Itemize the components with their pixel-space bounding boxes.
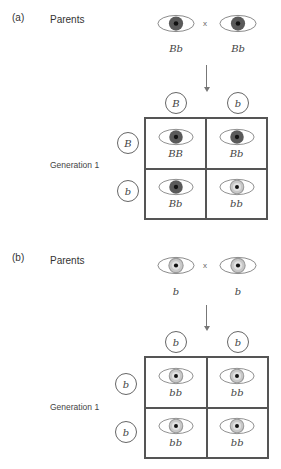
cell-genotype: BB: [168, 148, 183, 159]
blue-eye-icon: [219, 367, 255, 385]
column-allele: b: [227, 92, 249, 114]
punnett-cell: bb: [207, 357, 269, 408]
cell-genotype: bb: [169, 437, 182, 448]
parent-genotype: Bb: [156, 43, 196, 54]
arrowhead-icon: [204, 326, 210, 331]
panel-label: (a): [12, 12, 24, 23]
cell-genotype: bb: [230, 198, 243, 209]
brown-eye-icon: [158, 128, 194, 146]
punnett-square: BB Bb Bb bb: [144, 117, 268, 220]
punnett-square: bb bb bb bb: [144, 356, 269, 459]
parents-label: Parents: [50, 14, 84, 25]
arrow-down-icon: [206, 65, 207, 88]
generation-label: Generation 1: [50, 402, 99, 412]
cell-genotype: Bb: [230, 148, 244, 159]
blue-eye-icon: [219, 256, 257, 275]
brown-eye-icon: [219, 14, 257, 33]
punnett-cell: Bb: [206, 118, 267, 169]
brown-eye-icon: [158, 178, 194, 196]
punnett-cell: bb: [206, 169, 267, 220]
punnett-cell: bb: [145, 408, 207, 459]
blue-eye-icon: [157, 256, 195, 275]
blue-eye-icon: [158, 367, 194, 385]
blue-eye-icon: [158, 417, 194, 435]
cell-genotype: bb: [169, 387, 182, 398]
generation-label: Generation 1: [50, 160, 99, 170]
punnett-cell: Bb: [145, 169, 206, 220]
row-allele: b: [115, 373, 137, 395]
parent-genotype: Bb: [218, 43, 258, 54]
row-allele: b: [115, 421, 137, 443]
punnett-cell: bb: [145, 357, 207, 408]
arrow-down-icon: [206, 305, 207, 327]
column-allele: B: [165, 92, 187, 114]
brown-eye-icon: [157, 14, 195, 33]
row-allele: b: [117, 180, 139, 202]
parent-genotype: b: [156, 286, 196, 297]
blue-eye-icon: [219, 417, 255, 435]
punnett-cell: bb: [207, 408, 269, 459]
panel-label: (b): [12, 252, 24, 263]
parent-genotype: b: [218, 286, 258, 297]
column-allele: b: [165, 331, 187, 353]
parents-label: Parents: [50, 255, 84, 266]
punnett-cell: BB: [145, 118, 206, 169]
cell-genotype: bb: [231, 387, 244, 398]
blue-eye-icon: [219, 178, 255, 196]
cell-genotype: Bb: [169, 198, 183, 209]
brown-eye-icon: [219, 128, 255, 146]
column-allele: b: [227, 331, 249, 353]
cell-genotype: bb: [231, 437, 244, 448]
arrowhead-icon: [204, 87, 210, 92]
row-allele: B: [117, 132, 139, 154]
cross-symbol: x: [203, 19, 207, 28]
cross-symbol: x: [203, 261, 207, 270]
